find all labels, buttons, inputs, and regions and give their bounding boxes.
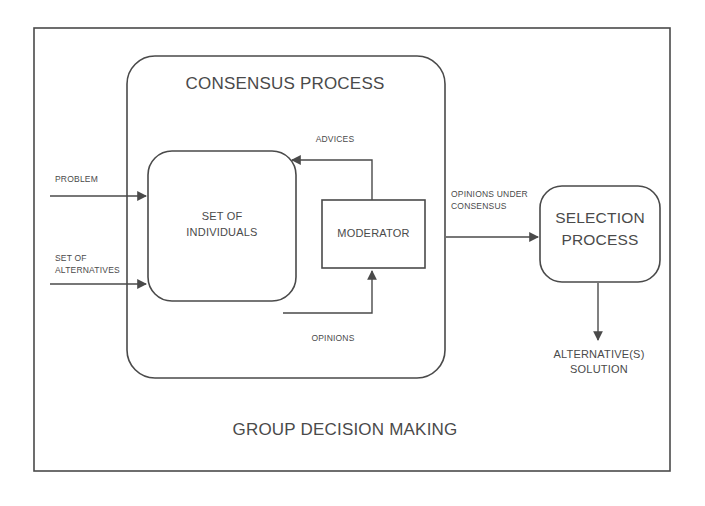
selection-process-label-line2: PROCESS (540, 231, 660, 249)
diagram-canvas: CONSENSUS PROCESS GROUP DECISION MAKING … (0, 0, 705, 506)
opinions-under-consensus-label-line1: OPINIONS UNDER (451, 189, 528, 199)
set-of-individuals-label-line1: SET OF (148, 210, 296, 223)
problem-label: PROBLEM (55, 174, 98, 184)
advices-label: ADVICES (295, 134, 375, 144)
set-of-individuals-label-line2: INDIVIDUALS (148, 226, 296, 239)
moderator-label: MODERATOR (322, 227, 425, 240)
group-decision-making-title: GROUP DECISION MAKING (225, 420, 465, 440)
selection-process-label-line1: SELECTION (540, 209, 660, 227)
opinions-under-consensus-label-line2: CONSENSUS (451, 201, 507, 211)
alternatives-solution-label-line1: ALTERNATIVE(S) (538, 348, 660, 361)
opinions-label: OPINIONS (293, 333, 373, 343)
set-of-alternatives-label-line1: SET OF (55, 253, 87, 263)
group-decision-making-frame (34, 28, 670, 471)
alternatives-solution-label-line2: SOLUTION (538, 363, 660, 376)
set-of-alternatives-label-line2: ALTERNATIVES (55, 265, 120, 275)
advices-arrow (292, 160, 372, 200)
consensus-process-title: CONSENSUS PROCESS (165, 74, 405, 94)
